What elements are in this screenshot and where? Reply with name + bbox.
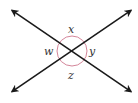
diagram-svg: x w y z bbox=[0, 0, 138, 103]
angle-label-top: x bbox=[68, 23, 75, 36]
angle-label-right: y bbox=[88, 45, 96, 58]
vertical-angles-diagram: x w y z bbox=[0, 0, 138, 103]
angle-label-bottom: z bbox=[67, 69, 74, 82]
angle-label-left: w bbox=[44, 45, 54, 58]
